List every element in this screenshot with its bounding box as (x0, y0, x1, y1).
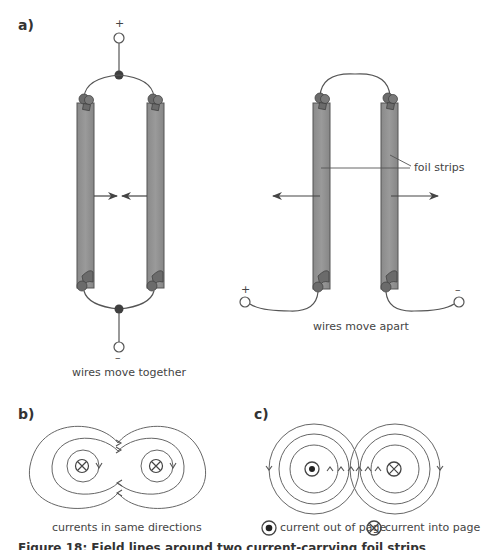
caption-same-directions: currents in same directions (52, 521, 202, 534)
figure-caption: Figure 18: Field lines around two curren… (18, 541, 426, 550)
top-terminal-icon (114, 33, 124, 43)
field-diagram-same-direction (29, 426, 205, 508)
caption-wires-together: wires move together (72, 366, 186, 379)
field-diagram-opposite-direction (266, 424, 443, 514)
foil-strips-callout: foil strips (414, 161, 465, 174)
diagram-canvas (0, 0, 485, 550)
foil-strip-right (147, 103, 164, 288)
bottom-terminal-sign: – (115, 351, 121, 364)
bottom-junction-icon (115, 305, 124, 314)
setup-wires-apart (240, 74, 464, 311)
legend-into-page-label: current into page (385, 521, 480, 534)
top-terminal-sign: + (115, 17, 124, 30)
plus-terminal-icon (240, 297, 250, 307)
caption-wires-apart: wires move apart (313, 320, 409, 333)
minus-terminal-sign: – (455, 283, 461, 296)
setup-wires-together (77, 33, 164, 352)
minus-terminal-icon (454, 297, 464, 307)
plus-terminal-sign: + (241, 283, 250, 296)
legend-out-of-page-label: current out of page (280, 521, 386, 534)
foil-strip-left (77, 103, 94, 288)
